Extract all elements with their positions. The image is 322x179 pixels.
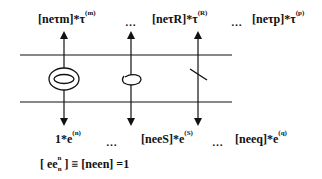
bottom-ellipsis-1: … [106,137,118,148]
bottom-label-q-sup: (q) [278,129,287,137]
vertical-line-r [194,31,202,126]
equation-rest: ] ≡ [neen] =1 [64,157,129,171]
bottom-label-s-base: [neeS]*e [141,132,184,146]
down-arrow-icon [60,118,68,126]
top-label-p-sup: (p) [296,9,305,17]
equation-left-sup: n [58,154,62,162]
down-arrow-icon [127,118,135,126]
bottom-label-n-base: 1*e [55,132,72,146]
feynman-diagram: [neτm]*τ(m) … [neτR]*τ(R) … [neτp]*τ(p) … [0,0,322,179]
normalization-equation: [ eenn ] ≡ [neen] =1 [40,158,129,173]
bottom-ellipsis-2: … [212,137,224,148]
top-label-m: [neτm]*τ(m) [38,13,96,25]
top-label-r-sup: (R) [198,9,208,17]
bottom-label-n: 1*e(n) [55,133,81,145]
bottom-label-s: [neeS]*e(S) [141,133,193,145]
top-ellipsis-2: … [231,17,243,28]
open-loop-icon [123,75,142,85]
double-ellipse-icon [49,68,79,90]
bottom-label-q: [neeq]*e(q) [235,133,287,145]
bottom-label-q-base: [neeq]*e [235,132,278,146]
equation-left-sub: n [58,165,62,173]
top-label-m-sup: (m) [85,9,96,17]
top-label-p: [neτp]*τ(p) [252,13,304,25]
top-label-r: [neτR]*τ(R) [152,13,207,25]
equation-left-open: [ ee [40,157,58,171]
top-ellipsis-1: … [125,17,137,28]
top-label-m-base: [neτm]*τ [38,12,85,26]
up-arrow-icon [194,31,202,39]
bottom-label-n-sup: (n) [72,129,81,137]
bottom-label-s-sup: (S) [184,129,193,137]
up-arrow-icon [127,31,135,39]
down-arrow-icon [194,118,202,126]
top-label-p-base: [neτp]*τ [252,12,296,26]
up-arrow-icon [60,31,68,39]
top-label-r-base: [neτR]*τ [152,12,198,26]
diagram-lines [0,0,322,179]
